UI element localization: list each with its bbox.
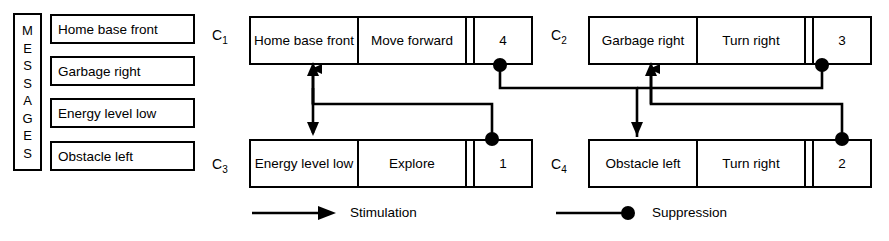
suppression-dot-c1 <box>493 58 507 72</box>
wire-c1-suppresses-c3 <box>500 66 637 137</box>
wire-c3-stimulates-c1 <box>313 69 492 137</box>
wire-c2-suppresses-c4 <box>637 66 822 88</box>
legend-stimulation-label: Stimulation <box>350 205 417 220</box>
legend-arrowhead <box>318 206 336 220</box>
legend-suppression-label: Suppression <box>652 205 727 220</box>
suppression-dot-c3 <box>485 132 499 146</box>
connection-wires <box>0 0 889 241</box>
suppression-dots <box>485 58 849 146</box>
arrowhead-up-c2 <box>645 62 657 76</box>
arrowhead-down-c4 <box>631 122 643 136</box>
arrowheads <box>307 62 657 136</box>
arrowhead-down-c3 <box>307 122 319 136</box>
suppression-dot-c4 <box>835 132 849 146</box>
wire-c4-stimulates-c2 <box>651 69 842 137</box>
legend-suppression-dot <box>621 206 635 220</box>
diagram-root: M E S S A G E S Home base front Garbage … <box>0 0 889 241</box>
arrowhead-up-c1 <box>307 62 319 76</box>
suppression-dot-c2 <box>815 58 829 72</box>
